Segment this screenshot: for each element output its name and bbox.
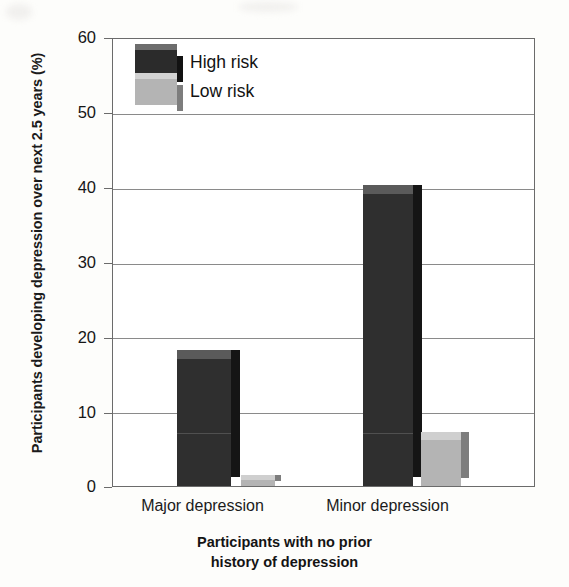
- bar-scan-seam: [363, 433, 413, 434]
- gridline-20: [113, 338, 534, 339]
- bar-scan-seam: [177, 433, 231, 434]
- gridline-30: [113, 264, 534, 265]
- y-tick-label-10: 10: [36, 403, 96, 422]
- y-tick-label-40: 40: [36, 178, 96, 197]
- y-tick-label-20: 20: [36, 328, 96, 347]
- gridline-40: [113, 189, 534, 190]
- y-tick-mark-0: [104, 487, 112, 488]
- bar-front-face: [177, 359, 231, 486]
- bar-minor-low-risk: [421, 440, 461, 486]
- bar-minor-high-risk: [363, 194, 413, 486]
- y-tick-label-0: 0: [36, 477, 96, 496]
- bar-front-face: [241, 480, 275, 486]
- y-tick-mark-40: [104, 188, 112, 189]
- swatch-front-face: [135, 79, 177, 105]
- y-tick-mark-50: [104, 113, 112, 114]
- y-tick-label-60: 60: [36, 28, 96, 47]
- x-axis-title: Participants with no prior history of de…: [0, 533, 569, 572]
- y-tick-mark-60: [104, 38, 112, 39]
- legend-item-low-risk: Low risk: [135, 77, 258, 106]
- bar-front-face: [363, 194, 413, 486]
- gridline-50: [113, 114, 534, 115]
- bar-major-high-risk: [177, 359, 231, 486]
- x-axis-title-line-2: history of depression: [0, 553, 569, 573]
- legend-label-high-risk: High risk: [190, 52, 258, 73]
- legend: High risk Low risk: [135, 48, 258, 106]
- scan-artifact: [238, 2, 298, 12]
- swatch-side-face: [177, 85, 183, 111]
- bar-top-face: [363, 185, 413, 194]
- y-tick-mark-20: [104, 338, 112, 339]
- bar-top-face: [421, 432, 461, 440]
- bar-top-face: [177, 350, 231, 359]
- x-category-label-minor-depression: Minor depression: [305, 497, 470, 515]
- x-category-label-major-depression: Major depression: [120, 497, 285, 515]
- x-axis-title-line-1: Participants with no prior: [0, 533, 569, 553]
- bar-side-face: [461, 432, 469, 478]
- bar-major-low-risk: [241, 480, 275, 486]
- bar-side-face: [275, 475, 281, 481]
- y-tick-mark-10: [104, 413, 112, 414]
- bar-front-face: [421, 440, 461, 486]
- bar-side-face: [231, 350, 240, 477]
- y-tick-label-50: 50: [36, 103, 96, 122]
- y-axis-ticks: 60 50 40 30 20 10 0: [0, 0, 112, 587]
- legend-label-low-risk: Low risk: [190, 81, 254, 102]
- bar-chart-figure: Participants developing depression over …: [0, 0, 569, 587]
- y-tick-label-30: 30: [36, 253, 96, 272]
- y-tick-mark-30: [104, 263, 112, 264]
- legend-swatch-low-risk-icon: [135, 79, 177, 105]
- swatch-side-face: [177, 56, 183, 82]
